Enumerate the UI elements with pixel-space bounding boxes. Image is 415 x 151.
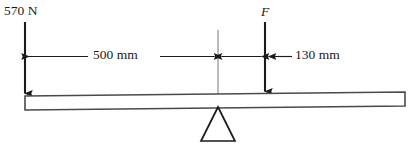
- diagram-canvas: [0, 0, 415, 151]
- beam: [25, 92, 405, 110]
- statics-diagram-figure: 570 N F 500 mm 130 mm: [0, 0, 415, 151]
- load-label-570n: 570 N: [4, 4, 37, 18]
- dimension-label-500mm: 500 mm: [93, 48, 138, 62]
- fulcrum-triangle: [201, 107, 235, 141]
- dimension-label-130mm: 130 mm: [295, 48, 340, 62]
- force-label-f: F: [261, 5, 269, 19]
